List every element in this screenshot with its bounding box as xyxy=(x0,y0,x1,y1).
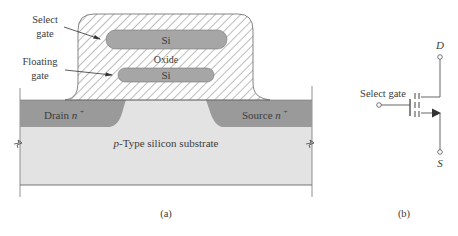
panel-a-caption: (a) xyxy=(160,208,172,220)
select-gate-label-line1: Select xyxy=(32,14,58,25)
panel-b-caption: (b) xyxy=(398,208,411,220)
cross-section-panel: Si Oxide Si Select gate Floating gate Dr… xyxy=(14,14,314,220)
floating-gate-label-line2: gate xyxy=(31,70,49,81)
source-terminal-icon xyxy=(438,150,443,155)
source-terminal-label: S xyxy=(437,157,443,169)
floating-gate-si-label: Si xyxy=(161,69,170,81)
drain-label: Drain n + xyxy=(44,108,84,121)
channel-segments xyxy=(415,93,419,117)
source-label: Source n + xyxy=(242,108,288,121)
drain-terminal-icon xyxy=(438,55,443,60)
flash-memory-cell-figure: Si Oxide Si Select gate Floating gate Dr… xyxy=(0,0,458,236)
transistor-symbol-panel: D Select gate S (b) xyxy=(360,39,444,220)
drain-terminal-label: D xyxy=(435,39,444,51)
select-gate-label-line2: gate xyxy=(36,28,54,39)
floating-gate-label-line1: Floating xyxy=(22,56,58,67)
select-gate-si-label: Si xyxy=(161,34,170,46)
select-gate-terminal-label: Select gate xyxy=(360,88,406,99)
substrate-label: p-Type silicon substrate xyxy=(113,137,219,149)
oxide-label: Oxide xyxy=(154,54,179,65)
gate-terminal-icon xyxy=(377,103,382,108)
